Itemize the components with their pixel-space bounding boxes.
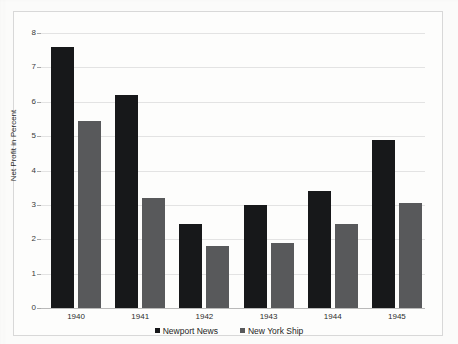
x-tick-label-1940: 1940 bbox=[46, 312, 106, 321]
y-tickmark-4 bbox=[37, 171, 41, 172]
plot-area bbox=[40, 33, 425, 308]
bar-newport-news-1941 bbox=[115, 95, 138, 308]
y-tickmark-6 bbox=[37, 102, 41, 103]
bar-newport-news-1943 bbox=[244, 205, 267, 308]
bar-new-york-ship-1943 bbox=[271, 243, 294, 308]
bar-new-york-ship-1945 bbox=[399, 203, 422, 308]
chart-legend: Newport NewsNew York Ship bbox=[0, 326, 458, 336]
legend-swatch-icon-0 bbox=[155, 328, 160, 333]
gridline-7 bbox=[40, 67, 425, 68]
legend-label: New York Ship bbox=[248, 326, 303, 336]
legend-entry-new-york-ship[interactable]: New York Ship bbox=[240, 326, 303, 336]
gridline-8 bbox=[40, 33, 425, 34]
y-tickmark-8 bbox=[37, 33, 41, 34]
gridline-0 bbox=[40, 308, 425, 309]
y-axis-title: Net Profit in Percent bbox=[9, 81, 18, 211]
legend-label: Newport News bbox=[163, 326, 218, 336]
y-tickmark-7 bbox=[37, 67, 41, 68]
legend-entry-newport-news[interactable]: Newport News bbox=[155, 326, 218, 336]
bar-newport-news-1940 bbox=[51, 47, 74, 308]
y-axis-title-wrapper: Net Profit in Percent bbox=[0, 33, 40, 308]
bar-newport-news-1945 bbox=[372, 140, 395, 308]
bar-newport-news-1944 bbox=[308, 191, 331, 308]
y-tickmark-5 bbox=[37, 136, 41, 137]
x-tick-label-1943: 1943 bbox=[239, 312, 299, 321]
bar-new-york-ship-1944 bbox=[335, 224, 358, 308]
x-tick-label-1944: 1944 bbox=[303, 312, 363, 321]
legend-swatch-icon-1 bbox=[240, 328, 245, 333]
y-tickmark-2 bbox=[37, 239, 41, 240]
bar-new-york-ship-1941 bbox=[142, 198, 165, 308]
y-tickmark-3 bbox=[37, 205, 41, 206]
bar-new-york-ship-1942 bbox=[206, 246, 229, 308]
x-tick-label-1941: 1941 bbox=[110, 312, 170, 321]
gridline-6 bbox=[40, 102, 425, 103]
bar-new-york-ship-1940 bbox=[78, 121, 101, 308]
bar-newport-news-1942 bbox=[179, 224, 202, 308]
y-tickmark-0 bbox=[37, 308, 41, 309]
bar-chart-figure: 012345678 Net Profit in Percent 19401941… bbox=[0, 0, 458, 344]
y-tickmark-1 bbox=[37, 274, 41, 275]
x-tick-label-1945: 1945 bbox=[367, 312, 427, 321]
x-tick-label-1942: 1942 bbox=[174, 312, 234, 321]
